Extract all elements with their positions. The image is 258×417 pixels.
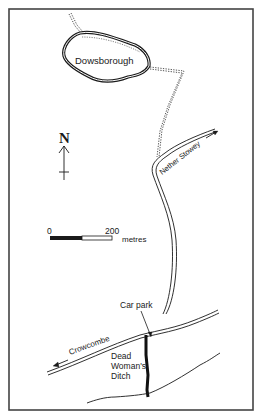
- crowcombe-arrow-icon: [53, 360, 68, 367]
- scale-start-label: 0: [47, 226, 52, 236]
- ditch-label-line3: Ditch: [111, 371, 131, 381]
- footpath-north: [69, 13, 83, 33]
- ditch-label-line2: Woman's: [111, 361, 146, 371]
- scale-end-label: 200: [105, 226, 119, 236]
- map-canvas: Dowsborough Nether Stowey N 0 200 metres…: [0, 0, 258, 417]
- footpath-south: [150, 67, 184, 157]
- hillfort-label: Dowsborough: [75, 55, 134, 66]
- crowcombe-label: Crowcombe: [68, 334, 112, 357]
- svg-text:N: N: [59, 130, 70, 146]
- scale-unit-label: metres: [122, 235, 146, 244]
- north-arrow-icon: N: [59, 130, 70, 180]
- boundary-line: [87, 353, 220, 403]
- ditch-label-line1: Dead: [111, 351, 132, 361]
- scale-bar: 0 200 metres: [47, 226, 146, 244]
- dead-womans-ditch: [146, 335, 148, 397]
- map-frame: [9, 9, 253, 410]
- car-park-label: Car park: [120, 300, 153, 310]
